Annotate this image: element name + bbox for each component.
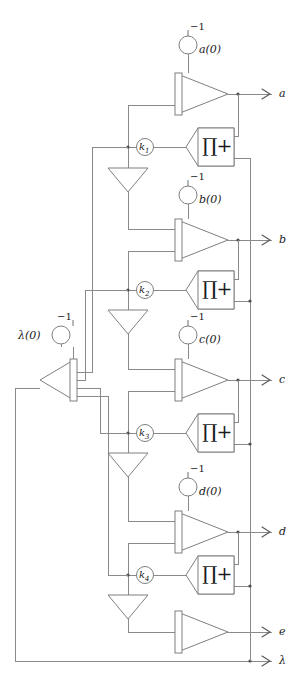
gain-label-k3: k3 [139, 428, 150, 441]
output-label-lambda: λ [279, 655, 286, 666]
lambda-bus [234, 158, 252, 661]
ic-circle-b [179, 180, 197, 207]
product-symbol-4: ∏+ [202, 564, 232, 583]
integrator-d [175, 499, 228, 553]
feedback-d-to-product4 [234, 532, 238, 564]
output-line-a [228, 89, 272, 99]
inverter3-output [128, 477, 175, 521]
integrator-c [175, 347, 228, 401]
ic-sign-d: −1 [190, 464, 205, 474]
inverter-3 [108, 453, 148, 477]
ic-sign-a: −1 [190, 22, 205, 32]
product-symbol-1: ∏+ [202, 136, 232, 155]
integrator-lambda [40, 347, 77, 401]
integrator-a [175, 57, 228, 115]
ic-label-lambda: λ(0) [18, 330, 41, 341]
inverter-2 [108, 310, 148, 334]
output-label-a: a [279, 88, 286, 99]
output-line-lambda [15, 656, 272, 666]
gain3-network [126, 391, 175, 453]
feedback-b-to-product2 [234, 240, 238, 279]
schematic-svg [0, 0, 303, 694]
inverter4-output [128, 619, 175, 632]
inverter1-output [128, 192, 175, 229]
inverter-4 [108, 595, 148, 619]
ic-sign-c: −1 [190, 312, 205, 322]
ic-label-c: c(0) [199, 334, 221, 345]
lambda-integrator-output-bus [77, 147, 128, 575]
diagram-canvas: a b c d e λ −1 a(0) −1 b(0) −1 c(0) −1 d… [0, 0, 303, 694]
ic-circle-c [179, 320, 197, 347]
gain-label-k1: k1 [139, 142, 150, 155]
product-symbol-3: ∏+ [202, 422, 232, 441]
output-label-c: c [279, 374, 285, 385]
inverter2-output [128, 334, 175, 369]
outer-lambda-feedback [15, 388, 40, 661]
output-label-d: d [279, 526, 286, 537]
ic-label-a: a(0) [199, 44, 221, 55]
output-label-e: e [279, 626, 286, 637]
ic-circle-d [179, 472, 197, 499]
output-label-b: b [279, 234, 286, 245]
integrator-b [175, 207, 228, 261]
integrator-e [175, 611, 228, 653]
gain-label-k2: k2 [139, 285, 150, 298]
ic-circle-lambda [52, 320, 73, 347]
ic-sign-b: −1 [190, 172, 205, 182]
ic-circle-a [179, 30, 197, 57]
gain-label-k4: k4 [139, 570, 150, 583]
product-symbol-2: ∏+ [202, 279, 232, 298]
feedback-a-to-product1 [234, 94, 238, 136]
ic-label-b: b(0) [199, 194, 222, 205]
ic-label-d: d(0) [199, 486, 222, 497]
feedback-c-to-product3 [234, 380, 238, 422]
gain2-network [126, 251, 175, 310]
ic-sign-lambda: −1 [57, 312, 72, 322]
inverter-1 [108, 168, 148, 192]
gain1-network [126, 105, 175, 168]
